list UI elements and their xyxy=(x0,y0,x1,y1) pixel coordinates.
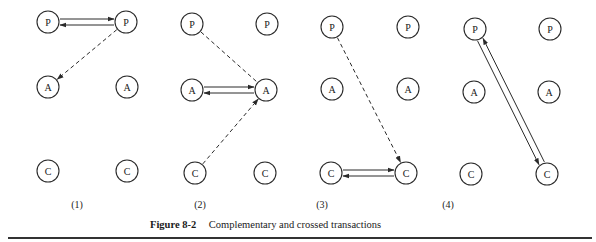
node-label: P xyxy=(264,19,270,30)
node-1-a1: A xyxy=(37,76,59,98)
node-label: C xyxy=(403,168,410,179)
figure-caption: Figure 8-2 Complementary and crossed tra… xyxy=(150,219,381,230)
node-4-c1: C xyxy=(460,163,482,185)
node-2-p2: P xyxy=(256,13,278,35)
node-2-a1: A xyxy=(181,79,203,101)
node-4-c2: C xyxy=(536,163,558,185)
panel-label-4: (4) xyxy=(442,199,454,210)
arrow-2-c1-to-a2 xyxy=(203,99,258,164)
node-1-c1: C xyxy=(37,160,59,182)
node-3-p1: P xyxy=(321,16,343,38)
node-4-a2: A xyxy=(538,81,560,103)
node-3-a1: A xyxy=(321,78,343,100)
figure-caption-text: Complementary and crossed transactions xyxy=(209,219,381,230)
node-2-a2: A xyxy=(255,79,277,101)
node-1-c2: C xyxy=(116,160,138,182)
node-label: P xyxy=(547,24,553,35)
node-1-p2: P xyxy=(115,11,137,33)
node-label: A xyxy=(188,85,196,96)
node-label: C xyxy=(544,169,551,180)
node-label: A xyxy=(123,82,131,93)
node-4-a1: A xyxy=(463,81,485,103)
bottom-rule xyxy=(8,237,592,239)
node-label: P xyxy=(472,24,478,35)
nodes-layer: PPAACCPPAACCPPAACCPPAACC xyxy=(37,11,561,185)
arrow-4-c2-to-p1 xyxy=(483,38,544,162)
node-label: P xyxy=(45,17,51,28)
node-3-p2: P xyxy=(397,16,419,38)
panel-label-1: (1) xyxy=(71,199,83,210)
node-label: A xyxy=(545,87,553,98)
panel-label-3: (3) xyxy=(316,199,328,210)
arrow-4-p1-to-c2 xyxy=(478,41,539,165)
arrow-3-p1-to-c2 xyxy=(337,38,400,163)
node-label: A xyxy=(404,84,412,95)
node-2-c2: C xyxy=(254,162,276,184)
node-1-p1: P xyxy=(37,11,59,33)
node-3-c2: C xyxy=(395,162,417,184)
node-label: C xyxy=(468,169,475,180)
panel-label-2: (2) xyxy=(194,199,206,210)
node-label: C xyxy=(192,168,199,179)
node-label: C xyxy=(45,166,52,177)
node-label: P xyxy=(405,22,411,33)
arrow-1-p2-to-a1 xyxy=(57,30,117,80)
node-label: A xyxy=(44,82,52,93)
node-3-c1: C xyxy=(320,162,342,184)
node-2-c1: C xyxy=(184,162,206,184)
transaction-diagram: PPAACCPPAACCPPAACCPPAACC xyxy=(0,0,596,242)
node-4-p2: P xyxy=(539,18,561,40)
node-label: A xyxy=(328,84,336,95)
node-4-p1: P xyxy=(464,18,486,40)
node-label: P xyxy=(189,19,195,30)
node-label: C xyxy=(262,168,269,179)
node-label: A xyxy=(262,85,270,96)
node-3-a2: A xyxy=(397,78,419,100)
node-2-p1: P xyxy=(181,13,203,35)
arrow-2-p1-to-a2 xyxy=(201,32,257,82)
node-label: C xyxy=(328,168,335,179)
node-1-a2: A xyxy=(116,76,138,98)
figure-number: Figure 8-2 xyxy=(150,219,196,230)
node-label: P xyxy=(123,17,129,28)
node-label: P xyxy=(329,22,335,33)
node-label: A xyxy=(470,87,478,98)
node-label: C xyxy=(124,166,131,177)
